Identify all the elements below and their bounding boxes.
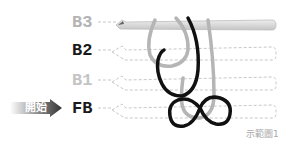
start-label: 開始	[25, 101, 47, 115]
row-label-b2: B2	[72, 42, 92, 59]
figure-caption: 示範圖1	[246, 127, 279, 140]
row-label-fb: FB	[72, 100, 92, 117]
row-label-b1: B1	[72, 72, 92, 89]
crochet-diagram	[0, 0, 292, 147]
yarn-dark	[158, 18, 231, 126]
crochet-hook	[116, 20, 276, 30]
row-label-b3: B3	[72, 14, 92, 31]
leader-lines	[98, 22, 116, 108]
